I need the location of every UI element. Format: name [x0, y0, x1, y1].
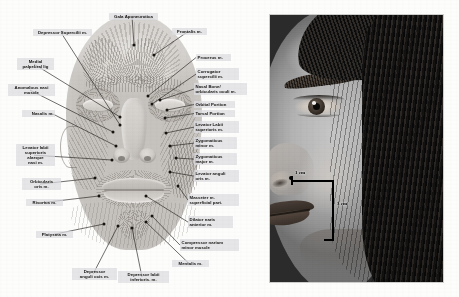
anatomy-label-procerus: Procerus m. [196, 54, 231, 61]
leader-line-nasal-bone-orbicularis [160, 89, 194, 100]
figure-root: Gala AponeuroticaDepressor Supercilii m.… [0, 0, 459, 297]
leader-dot-depressor-anguli-oris [117, 225, 120, 228]
leader-dot-levator-anguli-oris [169, 171, 172, 174]
anatomy-label-dilator-naris-anterior: Dilator naris anterior m. [188, 216, 233, 228]
measurement-vertical-line [332, 180, 334, 240]
leader-dot-corrugator-supercilii [151, 103, 154, 106]
anatomy-label-anomalous-nasi: Anomalous nasi muscle [8, 84, 55, 96]
leader-dot-levator-labii-alaeque [111, 159, 114, 162]
leader-dot-medial-palpebral-lig [119, 116, 122, 119]
leader-dot-nasalis [115, 145, 118, 148]
leader-line-depressor-labii-inf [132, 228, 142, 277]
anatomy-label-nasalis: Nasalis m. [22, 110, 55, 117]
measurement-horizontal-line [292, 180, 334, 182]
leader-line-depressor-anguli-oris [93, 226, 118, 274]
leader-line-masseter-superficial [178, 186, 188, 200]
anatomy-label-levator-labii-sup: Levator Labii superioris m. [194, 121, 239, 133]
leader-dot-levator-labii-sup [165, 132, 168, 135]
leader-dot-masseter-superficial [177, 185, 180, 188]
leader-line-tarsal-portion [165, 114, 194, 118]
leader-dot-frontalis [153, 54, 156, 57]
leader-dot-procerus [147, 95, 150, 98]
leader-dot-orbicularis-oris [94, 177, 97, 180]
anatomy-label-masseter-superficial: Masseter m. superficial part. [188, 194, 239, 206]
leader-line-levator-anguli-oris [170, 172, 194, 176]
measurement-annotation-group: 1 cm 3 cm [270, 15, 443, 282]
anatomy-label-compressor-narium: Compressor narium minor muscle [180, 239, 239, 251]
anatomy-label-depressor-anguli-oris: Depressor anguli ocis m. [72, 268, 117, 280]
leader-dot-depressor-labii-inf [131, 227, 134, 230]
leader-dot-tarsal-portion [164, 117, 167, 120]
anatomy-label-corrugator-supercilii: Corrugator supercilii m. [196, 68, 239, 80]
anatomy-label-zygomaticus-minor: Zygomaticus minor m. [194, 137, 237, 149]
leader-dot-nasal-bone-orbicularis [159, 99, 162, 102]
anatomy-label-frontalis: Frontalis m. [172, 28, 207, 35]
leader-dot-anomalous-nasi [112, 131, 115, 134]
anatomy-label-depressor-labii-inf: Depressor labii inferioris. m. [118, 271, 169, 283]
measurement-label-horizontal: 1 cm [295, 170, 305, 175]
anatomy-illustration-panel: Gala AponeuroticaDepressor Supercilii m.… [0, 0, 265, 297]
anatomy-label-mentalis: Mentalis m. [172, 260, 209, 267]
leader-dot-risorius [98, 195, 101, 198]
clinical-photograph-panel: 1 cm 3 cm [270, 15, 443, 282]
leader-line-galea-aponeurotica [132, 17, 134, 45]
leader-line-compressor-narium [152, 216, 180, 245]
anatomy-label-zygomaticus-major: Zygomaticus major m. [194, 153, 237, 165]
leader-dot-zygomaticus-major [175, 157, 178, 160]
leader-line-zygomaticus-minor [170, 143, 194, 146]
anatomy-label-galea-aponeurotica: Gala Aponeurotica [109, 13, 158, 20]
measurement-origin-dot [289, 176, 293, 180]
leader-line-zygomaticus-major [176, 158, 194, 159]
leader-line-levator-labii-sup [166, 127, 194, 133]
leader-dot-dilator-naris-anterior [145, 195, 148, 198]
leader-line-nasalis [52, 114, 116, 146]
leader-dot-mentalis [145, 221, 148, 224]
leader-dot-orbital-portion [166, 109, 169, 112]
measurement-bottom-cap [324, 239, 334, 241]
leader-dot-galea-aponeurotica [133, 44, 136, 47]
measurement-label-vertical: 3 cm [337, 201, 347, 206]
anatomy-label-tarsal-portion: Tarsal Portion [194, 110, 235, 117]
anatomy-label-nasal-bone-orbicularis: Nasal Bone/ orbicularis oculi m. [194, 83, 247, 95]
anatomy-label-levator-anguli-oris: Levator anguli oris m. [194, 170, 239, 182]
anatomy-label-orbicularis-oris: Orbicularis oris m. [22, 178, 61, 190]
leader-line-depressor-supercilii [61, 33, 120, 125]
leader-line-dilator-naris-anterior [146, 196, 188, 222]
anatomy-label-medial-palpebral-lig: Medial palpebral lig [17, 58, 54, 70]
leader-line-frontalis [154, 32, 188, 55]
anatomy-label-platysma: Platysma m. [36, 231, 73, 238]
leader-line-orbital-portion [167, 105, 194, 110]
leader-dot-platysma [103, 223, 106, 226]
leader-dot-compressor-narium [151, 215, 154, 218]
leader-dot-zygomaticus-minor [169, 145, 172, 148]
anatomy-label-depressor-supercilii: Depressor Supercilii m. [33, 29, 92, 36]
anatomy-label-levator-labii-alaeque: Levator labii superioris alaeque nasi m. [16, 144, 55, 166]
anatomy-label-orbital-portion: Orbital Portion [194, 101, 235, 108]
leader-dot-depressor-supercilii [119, 124, 122, 127]
anatomy-label-risorius: Risorius m. [26, 199, 63, 206]
